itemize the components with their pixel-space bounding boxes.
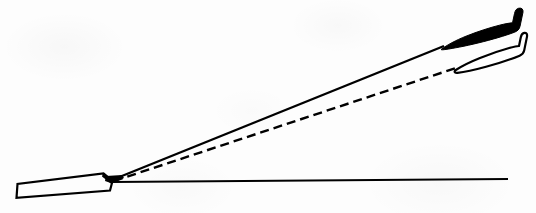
runway-group: [17, 173, 114, 198]
aircraft-filled-group: [441, 8, 523, 50]
horizontal-ground-reference-line: [112, 179, 508, 182]
aircraft-filled-body: [441, 8, 523, 50]
solid-flight-path: [112, 46, 444, 180]
figure-canvas: [0, 0, 536, 213]
climb-path-diagram: [0, 0, 536, 213]
dashed-flight-path: [114, 68, 456, 181]
runway-outline: [17, 174, 113, 198]
